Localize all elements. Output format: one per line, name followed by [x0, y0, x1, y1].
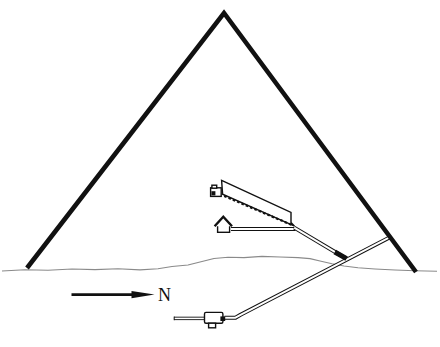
descending-passage	[225, 237, 391, 318]
north-label: N	[158, 285, 171, 305]
grand-gallery	[222, 180, 295, 226]
pyramid-outline	[27, 13, 416, 272]
granite-plug	[335, 252, 347, 259]
subterranean-chamber	[205, 312, 226, 327]
queens-chamber	[215, 217, 232, 233]
relieving-notch	[212, 185, 217, 188]
chamber-entry-block	[220, 316, 225, 321]
pyramid-cross-section-diagram: N	[0, 0, 440, 347]
north-arrow-head	[132, 291, 155, 298]
subterranean-chamber-box	[205, 312, 223, 323]
kings-chamber	[211, 185, 222, 196]
descending-passage-bore	[225, 237, 391, 318]
sarcophagus	[211, 191, 215, 195]
pit	[209, 323, 216, 328]
blind-passage	[174, 317, 205, 321]
north-arrow: N	[72, 285, 172, 305]
grand-gallery-outline	[222, 180, 295, 226]
figure-canvas: N	[0, 0, 440, 347]
queens-chamber-roof	[215, 217, 232, 226]
ground-line	[2, 256, 437, 271]
